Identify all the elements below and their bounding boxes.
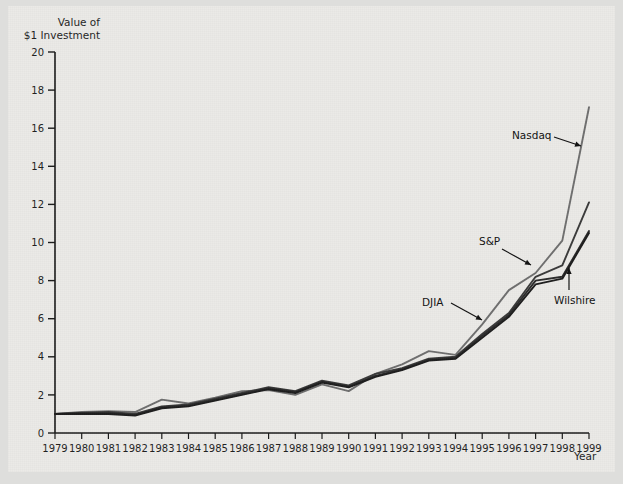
y-axis-ticks: 02468101214161820 bbox=[31, 47, 55, 439]
series-label-wilshire: Wilshire bbox=[554, 294, 596, 306]
series-label-sp: S&P bbox=[479, 235, 500, 247]
series-label-djia: DJIA bbox=[422, 296, 443, 308]
svg-text:10: 10 bbox=[31, 237, 44, 248]
svg-text:4: 4 bbox=[38, 351, 44, 362]
svg-text:6: 6 bbox=[38, 313, 44, 324]
svg-text:1992: 1992 bbox=[389, 443, 414, 454]
svg-text:16: 16 bbox=[31, 123, 44, 134]
svg-text:1980: 1980 bbox=[69, 443, 94, 454]
svg-text:1982: 1982 bbox=[122, 443, 147, 454]
svg-text:1999: 1999 bbox=[576, 443, 601, 454]
svg-text:1990: 1990 bbox=[336, 443, 361, 454]
svg-text:1995: 1995 bbox=[469, 443, 494, 454]
svg-text:1997: 1997 bbox=[523, 443, 548, 454]
chart-figure: Value of$1 Investment Year 0246810121416… bbox=[8, 6, 615, 472]
svg-text:1998: 1998 bbox=[550, 443, 575, 454]
svg-text:8: 8 bbox=[38, 275, 44, 286]
svg-text:12: 12 bbox=[31, 199, 44, 210]
svg-text:14: 14 bbox=[31, 161, 44, 172]
svg-text:18: 18 bbox=[31, 85, 44, 96]
svg-text:1984: 1984 bbox=[176, 443, 201, 454]
svg-text:1989: 1989 bbox=[309, 443, 334, 454]
svg-text:0: 0 bbox=[38, 428, 44, 439]
svg-text:1979: 1979 bbox=[42, 443, 67, 454]
svg-text:1988: 1988 bbox=[283, 443, 308, 454]
svg-text:1985: 1985 bbox=[202, 443, 227, 454]
svg-text:1983: 1983 bbox=[149, 443, 174, 454]
svg-text:1991: 1991 bbox=[363, 443, 388, 454]
svg-text:1994: 1994 bbox=[443, 443, 468, 454]
svg-text:20: 20 bbox=[31, 47, 44, 58]
svg-text:1993: 1993 bbox=[416, 443, 441, 454]
svg-text:1986: 1986 bbox=[229, 443, 254, 454]
series-label-nasdaq: Nasdaq bbox=[512, 129, 552, 141]
series-lines bbox=[55, 107, 589, 415]
svg-text:1987: 1987 bbox=[256, 443, 281, 454]
line-chart-plot: 02468101214161820 1979198019811982198319… bbox=[8, 6, 615, 472]
annotation-arrows bbox=[451, 137, 581, 320]
svg-text:1981: 1981 bbox=[96, 443, 121, 454]
x-axis-ticks: 1979198019811982198319841985198619871988… bbox=[42, 433, 601, 454]
svg-text:2: 2 bbox=[38, 390, 44, 401]
svg-text:1996: 1996 bbox=[496, 443, 521, 454]
